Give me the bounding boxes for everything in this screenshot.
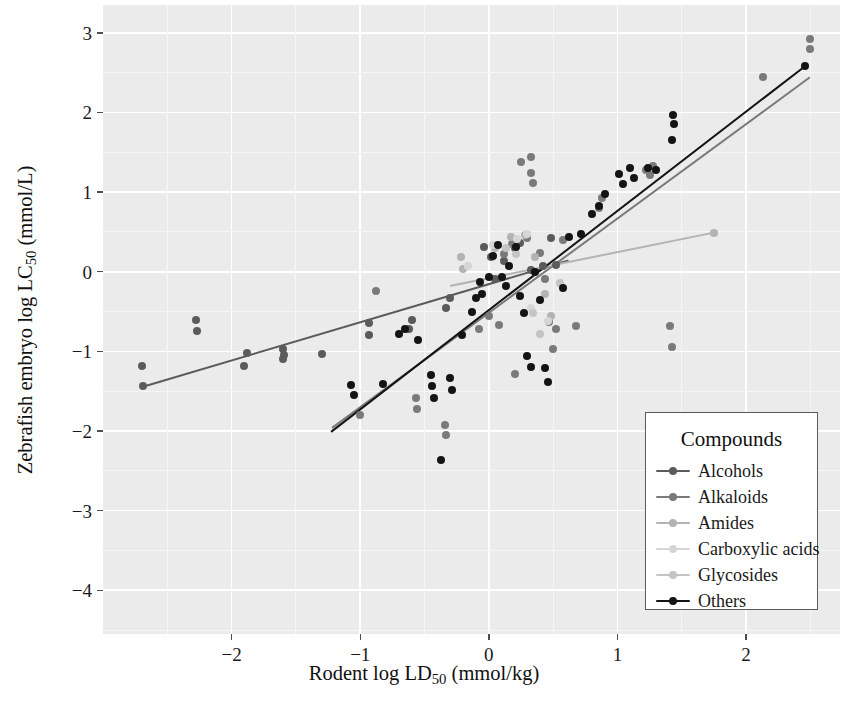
data-point <box>427 371 435 379</box>
data-point <box>498 273 506 281</box>
y-tick <box>97 112 103 113</box>
data-point <box>529 309 537 317</box>
legend-item-others[interactable]: Others <box>656 589 816 612</box>
data-point <box>280 351 288 359</box>
legend-item-amides[interactable]: Amides <box>656 511 816 534</box>
data-point <box>478 290 486 298</box>
data-point <box>547 234 555 242</box>
data-point <box>619 180 627 188</box>
legend-item-alcohols[interactable]: Alcohols <box>656 459 816 482</box>
y-tick-label: 0 <box>83 262 93 281</box>
data-point <box>446 294 454 302</box>
data-point <box>710 229 718 237</box>
data-point <box>806 35 814 43</box>
data-point <box>626 164 634 172</box>
data-point <box>531 268 539 276</box>
data-point <box>457 253 465 261</box>
data-point <box>475 325 483 333</box>
legend-item-carboxylic-acids[interactable]: Carboxylic acids <box>656 537 816 560</box>
data-point <box>572 322 580 330</box>
data-point <box>527 153 535 161</box>
data-point <box>414 336 422 344</box>
data-point <box>138 362 146 370</box>
y-tick-label: −3 <box>72 501 92 520</box>
data-point <box>523 230 531 238</box>
data-point <box>442 304 450 312</box>
data-point <box>536 330 544 338</box>
data-point <box>670 120 678 128</box>
y-tick-label: 1 <box>83 183 93 202</box>
legend-key-swatch-icon <box>656 464 690 478</box>
data-point <box>502 244 510 252</box>
y-tick <box>97 351 103 352</box>
data-point <box>601 190 609 198</box>
axis-title-unit: (mmol/L) <box>14 166 36 251</box>
gridline <box>103 32 840 34</box>
data-point <box>527 169 535 177</box>
y-tick <box>97 191 103 192</box>
data-point <box>413 405 421 413</box>
y-tick-label: −4 <box>72 581 92 600</box>
data-point <box>505 262 513 270</box>
gridline <box>103 72 840 73</box>
data-point <box>615 170 623 178</box>
data-point <box>446 374 454 382</box>
data-point <box>517 158 525 166</box>
data-point <box>806 45 814 53</box>
data-point <box>552 325 560 333</box>
legend-item-label: Amides <box>698 512 754 533</box>
data-point <box>476 278 484 286</box>
data-point <box>240 362 248 370</box>
x-tick <box>231 634 232 640</box>
legend-key-point <box>669 467 677 475</box>
y-tick <box>97 590 103 591</box>
legend-item-label: Alcohols <box>698 460 763 481</box>
y-tick <box>97 430 103 431</box>
legend-key-point <box>669 545 677 553</box>
data-point <box>516 292 524 300</box>
data-point <box>512 243 520 251</box>
x-tick-label: 2 <box>741 645 751 664</box>
data-point <box>356 411 364 419</box>
data-point <box>192 316 200 324</box>
legend-key-point <box>669 519 677 527</box>
data-point <box>529 179 537 187</box>
y-tick-label: 3 <box>83 23 93 42</box>
legend-key-point <box>669 571 677 579</box>
legend-key-point <box>669 597 677 605</box>
data-point <box>668 343 676 351</box>
data-point <box>539 262 547 270</box>
gridline <box>295 5 296 634</box>
data-point <box>666 322 674 330</box>
gridline <box>103 152 840 153</box>
y-tick-label: −1 <box>72 342 92 361</box>
data-point <box>759 73 767 81</box>
data-point <box>630 174 638 182</box>
x-axis-title: Rodent log LD50 (mmol/kg) <box>309 662 540 689</box>
gridline <box>103 191 840 193</box>
regression-line-others <box>330 65 806 433</box>
data-point <box>669 111 677 119</box>
data-point <box>318 350 326 358</box>
gridline <box>167 5 168 634</box>
legend-item-glycosides[interactable]: Glycosides <box>656 563 816 586</box>
data-point <box>559 284 567 292</box>
legend-item-label: Others <box>698 590 746 611</box>
legend-box: Compounds AlcoholsAlkaloidsAmidesCarboxy… <box>645 412 818 610</box>
gridline <box>359 5 361 634</box>
x-tick-label: −2 <box>222 645 242 664</box>
data-point <box>485 312 493 320</box>
axis-title-unit: (mmol/kg) <box>446 662 539 684</box>
data-point <box>588 210 596 218</box>
data-point <box>372 287 380 295</box>
y-tick-label: −2 <box>72 421 92 440</box>
legend-item-alkaloids[interactable]: Alkaloids <box>656 485 816 508</box>
gridline <box>103 271 840 273</box>
gridline <box>103 351 840 353</box>
data-point <box>512 250 520 258</box>
data-point <box>430 394 438 402</box>
y-axis-title: Zebrafish embryo log LC50 (mmol/L) <box>14 166 41 475</box>
data-point <box>523 352 531 360</box>
axis-title-base: Zebrafish embryo log LC <box>14 265 36 474</box>
legend-key-swatch-icon <box>656 516 690 530</box>
